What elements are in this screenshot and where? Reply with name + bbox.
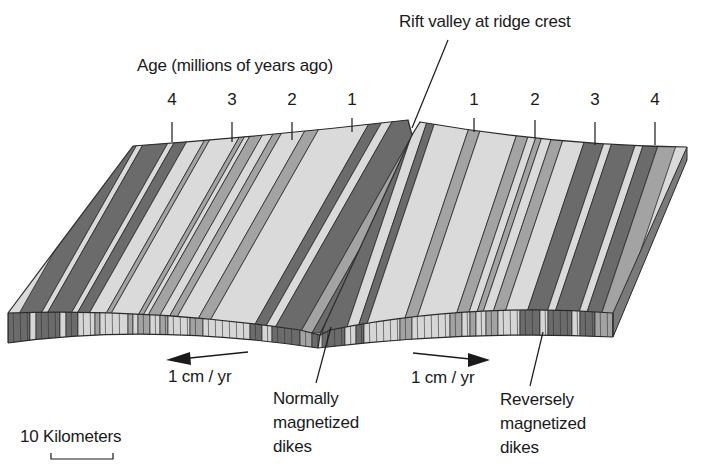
age-tick-right-3: 3	[585, 90, 605, 110]
age-tick-right-4: 4	[645, 90, 665, 110]
age-tick-left-3: 3	[222, 90, 242, 110]
scale-bar	[51, 453, 113, 459]
reverse-dikes-leader-line	[530, 332, 543, 386]
scale-bar-label: 10 Kilometers	[20, 427, 121, 447]
age-axis-label: Age (millions of years ago)	[137, 56, 333, 76]
age-tick-left-2: 2	[282, 90, 302, 110]
age-tick-right-2: 2	[525, 90, 545, 110]
age-tick-right-1: 1	[464, 90, 484, 110]
age-tick-left-4: 4	[162, 90, 182, 110]
arrow-left-icon	[166, 352, 248, 365]
arrow-right-icon	[413, 353, 490, 367]
normal-dikes-label: Normally magnetized dikes	[273, 387, 359, 459]
rift-leader-line	[412, 40, 448, 128]
rate-right-label: 1 cm / yr	[411, 368, 474, 388]
age-tick-left-1: 1	[342, 90, 362, 110]
reverse-dikes-label: Reversely magnetized dikes	[500, 388, 586, 460]
rift-valley-label: Rift valley at ridge crest	[399, 12, 570, 32]
rate-left-label: 1 cm / yr	[168, 367, 231, 387]
